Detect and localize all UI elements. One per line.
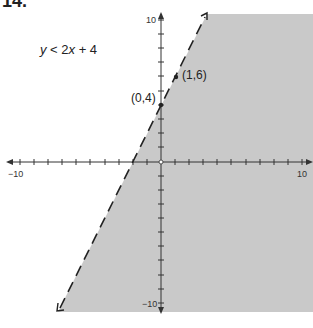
inequality-label: y < 2x + 4 <box>40 42 97 57</box>
x-axis-left-arrow <box>6 159 13 165</box>
point-0-4 <box>159 103 163 107</box>
x-min-label: −10 <box>8 169 23 179</box>
x-max-label: 10 <box>297 169 307 179</box>
y-min-label: −10 <box>142 299 157 309</box>
y-axis-top-arrow <box>158 12 164 19</box>
origin-marker <box>159 160 163 164</box>
point-1-6-label: (1,6) <box>182 68 207 82</box>
point-0-4-label: (0,4) <box>131 91 156 105</box>
point-1-6 <box>174 75 178 79</box>
shaded-region <box>58 14 313 312</box>
y-max-label: 10 <box>146 15 156 25</box>
